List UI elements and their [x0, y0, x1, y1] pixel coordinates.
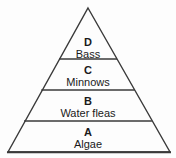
energy-pyramid-figure: D Bass C Minnows B Water fleas A Algae [0, 0, 176, 158]
pyramid-triangle [8, 8, 170, 152]
pyramid-outline [0, 0, 176, 158]
